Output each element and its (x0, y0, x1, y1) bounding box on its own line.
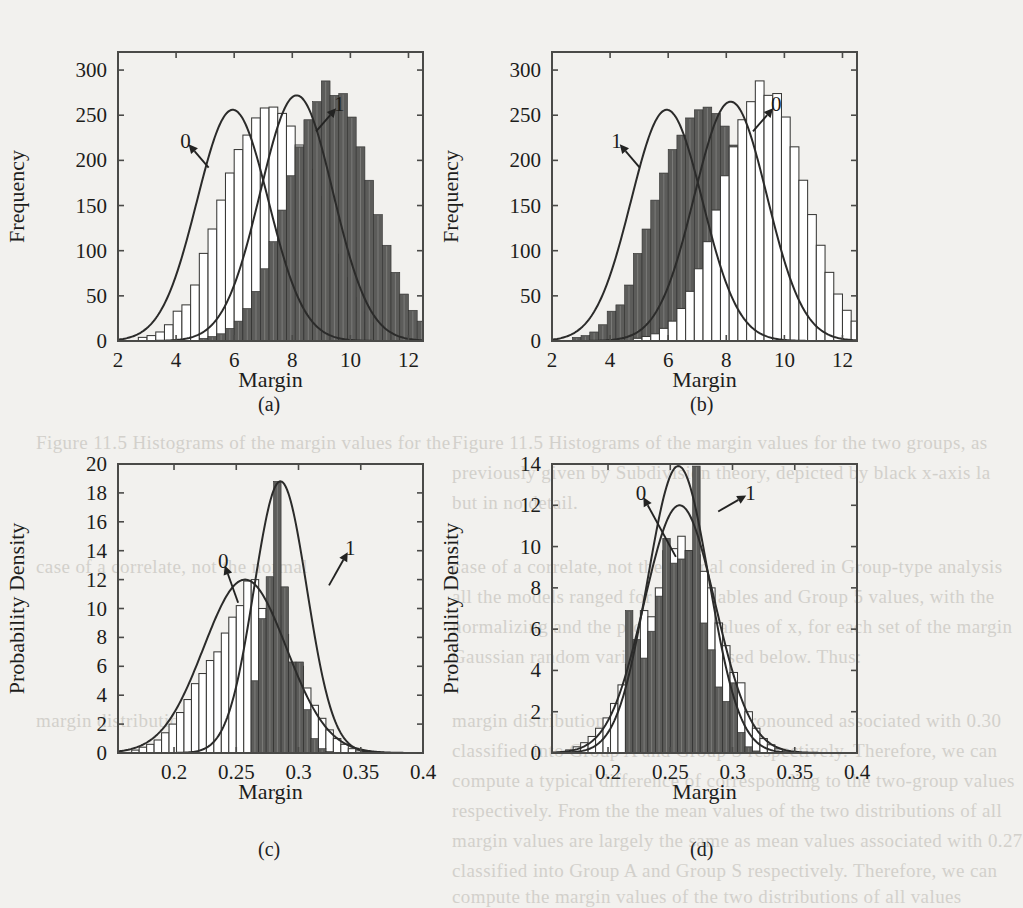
bar (877, 336, 886, 341)
y-tick-label: 50 (520, 284, 541, 308)
bar (173, 311, 182, 341)
subcaption-a: (a) (258, 393, 280, 416)
x-tick-label: 12 (398, 348, 419, 372)
callout-label: 1 (611, 129, 622, 153)
y-tick-label: 14 (86, 539, 108, 563)
bar (182, 305, 191, 341)
bar (738, 120, 747, 341)
bar (229, 617, 236, 753)
y-tick-label: 300 (510, 58, 542, 82)
bar (729, 147, 738, 341)
x-tick-label: 0.35 (776, 760, 813, 784)
bar (764, 95, 773, 341)
bar (177, 713, 184, 753)
x-axis-label: Margin (238, 779, 302, 804)
chart-c: 0.20.250.30.350.402468101214161820Margin… (0, 430, 455, 805)
y-tick-label: 12 (520, 493, 541, 517)
callout-line (718, 500, 738, 512)
y-tick-label: 0 (531, 329, 542, 353)
bar (199, 253, 208, 341)
bar (677, 308, 686, 341)
bar (184, 700, 191, 753)
bar (147, 744, 154, 753)
y-tick-label: 4 (531, 658, 542, 682)
bar (842, 310, 851, 341)
y-tick-label: 250 (510, 103, 542, 127)
bar (686, 291, 695, 341)
y-tick-label: 10 (86, 597, 107, 621)
chart-b: 24681012050100150200250300MarginFrequenc… (434, 18, 889, 393)
histogram-panel-c: 0.20.250.30.350.402468101214161820Margin… (0, 430, 455, 805)
y-tick-label: 200 (76, 148, 108, 172)
y-axis-label: Probability Density (438, 523, 463, 695)
x-tick-label: 4 (605, 348, 616, 372)
y-tick-label: 8 (531, 576, 542, 600)
histogram-panel-a: 24681012050100150200250300MarginFrequenc… (0, 18, 455, 393)
bar (860, 328, 869, 341)
y-tick-label: 50 (86, 284, 107, 308)
y-tick-label: 6 (97, 654, 108, 678)
bar (773, 94, 782, 341)
y-tick-label: 100 (510, 239, 542, 263)
histogram-panel-d: 0.20.250.30.350.402468101214MarginProbab… (434, 430, 889, 805)
x-axis-label: Margin (672, 367, 736, 392)
series-callout-0: 0 (636, 481, 676, 557)
y-tick-label: 2 (531, 700, 542, 724)
y-tick-label: 12 (86, 568, 107, 592)
bar (169, 724, 176, 753)
y-tick-label: 0 (97, 741, 108, 765)
x-tick-label: 10 (774, 348, 795, 372)
x-tick-label: 0.2 (161, 760, 187, 784)
x-tick-label: 12 (832, 348, 853, 372)
bar (720, 176, 729, 341)
x-tick-label: 0.4 (410, 760, 437, 784)
series-callout-1: 1 (611, 129, 639, 168)
bar (154, 740, 161, 753)
y-tick-label: 250 (76, 103, 108, 127)
series-callout-1: 1 (718, 481, 756, 512)
y-tick-label: 0 (97, 329, 108, 353)
y-tick-label: 100 (76, 239, 108, 263)
y-tick-label: 8 (97, 625, 108, 649)
y-tick-label: 200 (510, 148, 542, 172)
bar (651, 334, 660, 341)
plot-area-a (118, 81, 455, 341)
y-tick-label: 150 (76, 194, 108, 218)
callout-line (195, 151, 209, 167)
y-tick-label: 16 (86, 510, 107, 534)
y-axis-label: Frequency (438, 150, 463, 243)
bar (790, 147, 799, 341)
y-axis-label: Frequency (4, 150, 29, 243)
histogram-panel-b: 24681012050100150200250300MarginFrequenc… (434, 18, 889, 393)
bar (799, 180, 808, 341)
y-tick-label: 4 (97, 683, 108, 707)
plot-area-c (118, 481, 423, 753)
bar (659, 328, 668, 341)
bar (156, 332, 165, 341)
bar (694, 269, 703, 341)
subcaption-b: (b) (690, 393, 713, 416)
x-tick-label: 0.2 (595, 760, 621, 784)
callout-line (626, 151, 640, 167)
x-tick-label: 4 (171, 348, 182, 372)
bar (825, 272, 834, 341)
y-tick-label: 6 (531, 617, 542, 641)
callout-label: 1 (334, 92, 345, 116)
x-tick-label: 2 (547, 348, 558, 372)
x-tick-label: 0.4 (844, 760, 871, 784)
bar (221, 633, 228, 753)
callout-label: 1 (345, 536, 356, 560)
y-tick-label: 300 (76, 58, 108, 82)
series-callout-0: 0 (180, 129, 208, 168)
plot-area-b (552, 81, 889, 341)
bar (668, 321, 677, 341)
bar (703, 242, 712, 341)
x-tick-label: 10 (340, 348, 361, 372)
bar (834, 294, 843, 341)
callout-line (329, 560, 343, 585)
y-tick-label: 18 (86, 481, 107, 505)
bar (781, 117, 790, 341)
series-callout-1: 1 (329, 536, 355, 586)
callout-label: 0 (180, 129, 191, 153)
